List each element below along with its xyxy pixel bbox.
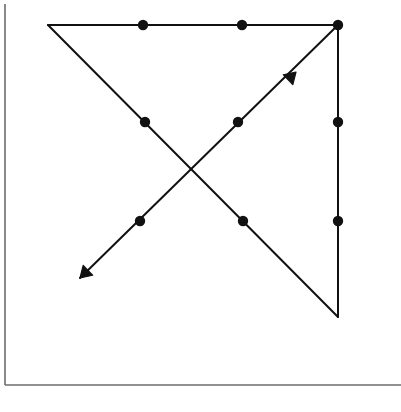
node-top-mid-left bbox=[138, 20, 148, 30]
node-top-right-corner bbox=[333, 20, 343, 30]
node-mid-right bbox=[333, 117, 343, 127]
ascending-diagonal-arrow bbox=[80, 25, 338, 278]
geometric-diagram bbox=[0, 0, 401, 412]
node-mid-left bbox=[140, 117, 150, 127]
arrowhead-up-right bbox=[283, 72, 296, 85]
node-low-right bbox=[333, 216, 343, 226]
node-low-left bbox=[135, 216, 145, 226]
node-top-mid-right bbox=[237, 20, 247, 30]
node-low-center bbox=[238, 216, 248, 226]
page-canvas bbox=[0, 0, 401, 412]
node-mid-center bbox=[233, 117, 243, 127]
